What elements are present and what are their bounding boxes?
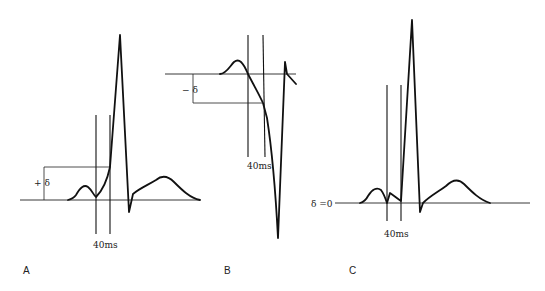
ecg-trace-a xyxy=(68,35,200,212)
interval-label-c: 40ms xyxy=(384,229,409,239)
delta-bracket-b xyxy=(193,74,263,103)
panel-c: δ =0 40ms C xyxy=(311,20,530,276)
panel-label-b: B xyxy=(224,265,231,276)
delta-label-c: δ =0 xyxy=(311,199,333,209)
panel-label-c: C xyxy=(349,265,356,276)
delta-label-b: − δ xyxy=(182,85,198,95)
ecg-trace-b xyxy=(220,61,296,239)
ecg-trace-c xyxy=(360,20,490,212)
panel-a: + δ 40ms A xyxy=(20,35,200,276)
panel-label-a: A xyxy=(23,265,30,276)
ecg-delta-diagram: + δ 40ms A − δ 40ms B δ =0 40ms C xyxy=(0,0,545,291)
interval-label-b: 40ms xyxy=(247,161,272,171)
panel-b: − δ 40ms B xyxy=(165,35,296,276)
40ms-marker-b xyxy=(263,35,265,157)
interval-label-a: 40ms xyxy=(93,240,118,250)
delta-label-a: + δ xyxy=(34,178,50,188)
